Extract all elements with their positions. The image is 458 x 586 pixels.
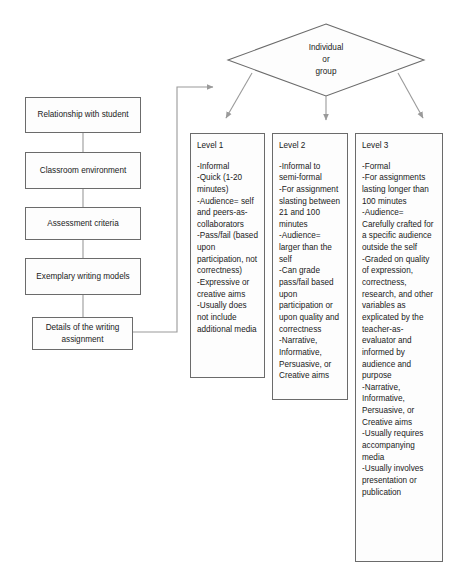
level-3-title: Level 3	[362, 140, 437, 152]
level-2-item: -Audience= larger than the self	[279, 230, 342, 265]
level-3-item: -Narrative, Informative, Persuasive, or …	[362, 382, 437, 429]
process-box-label: Classroom environment	[40, 165, 126, 176]
process-box-label: Details of the writing assignment	[37, 322, 128, 344]
level-2-item: -Narrative, Informative, Persuasive, or …	[279, 335, 342, 382]
level-2-item: -Can grade pass/fail based upon particip…	[279, 265, 342, 335]
decision-diamond: Individual or group	[228, 24, 424, 96]
process-box-details: Details of the writing assignment	[32, 317, 133, 350]
level-1-item: -Informal	[197, 161, 259, 173]
level-1-item: -Audience= self and peers-as-collaborato…	[197, 196, 259, 231]
level-2-item: -For assignment slasting between 21 and …	[279, 184, 342, 231]
level-3-items: -Formal -For assignments lasting longer …	[362, 161, 437, 499]
level-1-item: -Usually does not include additional med…	[197, 300, 259, 335]
process-box-label: Exemplary writing models	[36, 271, 129, 282]
level-2-item: -Informal to semi-formal	[279, 161, 342, 184]
process-box-label: Relationship with student	[37, 109, 128, 120]
flowchart-diagram: Relationship with student Classroom envi…	[0, 0, 458, 586]
level-box-1: Level 1 -Informal -Quick (1-20 minutes) …	[190, 133, 265, 378]
level-3-item: -Usually involves presentation or public…	[362, 463, 437, 498]
level-3-item: -Usually requires accompanying media	[362, 428, 437, 463]
level-3-item: -Graded on quality of expression, correc…	[362, 254, 437, 382]
decision-diamond-label: Individual or group	[228, 24, 424, 96]
process-box-relationship: Relationship with student	[25, 97, 141, 133]
level-3-item: -Formal	[362, 161, 437, 173]
level-2-title: Level 2	[279, 140, 342, 152]
level-3-item: -For assignments lasting longer than 100…	[362, 172, 437, 207]
level-box-2: Level 2 -Informal to semi-formal -For as…	[272, 133, 348, 400]
level-box-3: Level 3 -Formal -For assignments lasting…	[355, 133, 443, 562]
level-1-item: -Quick (1-20 minutes)	[197, 172, 259, 195]
process-box-classroom: Classroom environment	[25, 152, 141, 189]
level-1-title: Level 1	[197, 140, 259, 152]
decision-line-1: Individual	[309, 42, 344, 54]
level-1-item: -Expressive or creative aims	[197, 277, 259, 300]
process-box-models: Exemplary writing models	[25, 258, 141, 295]
level-3-item: -Audience= Carefully crafted for a speci…	[362, 207, 437, 254]
level-1-item: -Pass/fail (based upon participation, no…	[197, 230, 259, 277]
decision-line-2: or	[322, 54, 329, 66]
process-box-label: Assessment criteria	[47, 218, 118, 229]
decision-line-3: group	[316, 66, 337, 78]
process-box-assessment: Assessment criteria	[25, 207, 141, 240]
level-1-items: -Informal -Quick (1-20 minutes) -Audienc…	[197, 161, 259, 336]
level-2-items: -Informal to semi-formal -For assignment…	[279, 161, 342, 382]
